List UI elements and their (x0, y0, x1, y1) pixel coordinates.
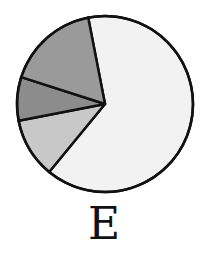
chart-label: E (0, 198, 208, 250)
pie-chart (0, 0, 208, 210)
